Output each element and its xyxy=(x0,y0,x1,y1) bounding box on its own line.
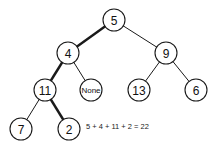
tree-node-4: 4 xyxy=(57,42,79,64)
tree-node-11: 11 xyxy=(34,79,56,101)
tree-node-13: 13 xyxy=(128,79,150,101)
node-label: 9 xyxy=(163,47,170,61)
node-label: 6 xyxy=(193,84,200,98)
tree-node-6: 6 xyxy=(185,79,207,101)
node-label: 4 xyxy=(65,47,72,61)
node-label: 7 xyxy=(18,123,25,137)
node-label: None xyxy=(81,86,101,95)
tree-node-2: 2 xyxy=(58,118,80,140)
tree-node-5: 5 xyxy=(103,9,125,31)
tree-node-9: 9 xyxy=(155,42,177,64)
tree-node-7: 7 xyxy=(10,118,32,140)
tree-node-none: None xyxy=(80,79,102,101)
node-label: 5 xyxy=(111,14,118,28)
node-label: 13 xyxy=(132,84,146,98)
path-sum-equation: 5 + 4 + 11 + 2 = 22 xyxy=(86,122,149,131)
node-label: 11 xyxy=(39,84,52,98)
node-label: 2 xyxy=(66,123,73,137)
tree-nodes: 54911None13672 xyxy=(10,9,207,140)
tree-edges xyxy=(21,20,196,129)
